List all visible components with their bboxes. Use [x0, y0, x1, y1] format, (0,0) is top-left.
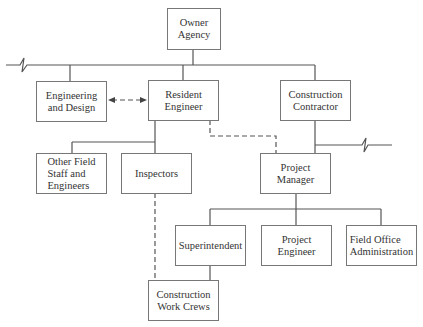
- node-engineering-design: Engineering and Design: [36, 81, 107, 122]
- node-label: Project Engineer: [278, 234, 316, 258]
- node-label: Resident Engineer: [165, 89, 203, 113]
- node-label: Engineering and Design: [46, 90, 97, 114]
- node-label: Other Field Staff and Engineers: [47, 156, 95, 192]
- node-label: Construction Work Crews: [156, 289, 210, 313]
- node-other-field-staff: Other Field Staff and Engineers: [36, 153, 107, 194]
- node-label: Construction Contractor: [288, 89, 342, 113]
- node-superintendent: Superintendent: [175, 225, 246, 266]
- node-construction-work-crews: Construction Work Crews: [148, 280, 219, 321]
- node-label: Inspectors: [135, 168, 178, 180]
- node-label: Project Manager: [277, 162, 314, 186]
- node-label: Owner Agency: [178, 17, 211, 41]
- node-field-office-administration: Field Office Administration: [346, 225, 417, 266]
- node-inspectors: Inspectors: [121, 153, 192, 194]
- node-resident-engineer: Resident Engineer: [148, 80, 219, 121]
- node-construction-contractor: Construction Contractor: [280, 80, 351, 121]
- node-label: Field Office Administration: [350, 234, 414, 258]
- node-label: Superintendent: [179, 240, 243, 252]
- node-project-manager: Project Manager: [260, 153, 331, 194]
- node-owner-agency: Owner Agency: [167, 8, 221, 50]
- node-project-engineer: Project Engineer: [261, 225, 332, 266]
